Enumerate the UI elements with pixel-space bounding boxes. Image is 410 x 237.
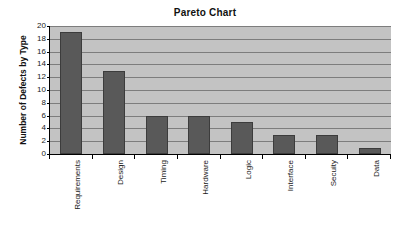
x-category-label-text: Requirements [73, 160, 82, 210]
bar [359, 148, 381, 154]
y-tick-label: 2 [28, 137, 46, 145]
y-tick-label: 10 [28, 86, 46, 94]
bar [60, 32, 82, 154]
y-axis-title: Number of Defects by Type [18, 20, 28, 160]
bar [103, 71, 125, 154]
x-category-label: Design [117, 160, 126, 185]
x-category-label: Timing [160, 160, 169, 184]
x-tick-mark [305, 155, 306, 159]
x-category-label: Hardware [202, 160, 211, 195]
x-tick-mark [134, 155, 135, 159]
x-category-label: Secuity [330, 160, 339, 186]
x-category-label-text: Interface [286, 160, 295, 191]
x-tick-mark [262, 155, 263, 159]
bar [316, 135, 338, 154]
x-category-label-text: Logic [244, 160, 253, 179]
y-tick-label: 16 [28, 48, 46, 56]
y-tick-label: 0 [28, 150, 46, 158]
y-tick-label: 18 [28, 35, 46, 43]
x-category-label-text: Hardware [201, 160, 210, 195]
x-category-label: Interface [287, 160, 296, 191]
x-tick-mark [390, 155, 391, 159]
y-tick-label: 6 [28, 112, 46, 120]
y-axis-tick-labels: 02468101214161820 [28, 26, 46, 154]
x-category-label-text: Timing [159, 160, 168, 184]
x-category-label: Data [373, 160, 382, 177]
chart-title: Pareto Chart [0, 7, 410, 18]
y-tick-label: 20 [28, 22, 46, 30]
bar [146, 116, 168, 154]
x-category-label-text: Secuity [329, 160, 338, 186]
y-tick-label: 8 [28, 99, 46, 107]
x-category-label: Requirements [74, 160, 83, 210]
x-tick-mark [92, 155, 93, 159]
pareto-chart-figure: Pareto Chart Number of Defects by Type 0… [0, 0, 410, 237]
x-axis-category-labels: RequirementsDesignTimingHardwareLogicInt… [49, 160, 391, 234]
bar [273, 135, 295, 154]
x-category-label: Logic [245, 160, 254, 179]
y-tick-label: 14 [28, 60, 46, 68]
bar [231, 122, 253, 154]
plot-area [49, 26, 391, 155]
x-category-label-text: Data [372, 160, 381, 177]
x-tick-mark [220, 155, 221, 159]
x-tick-mark [347, 155, 348, 159]
x-axis-tick-marks [49, 155, 391, 159]
y-tick-label: 4 [28, 124, 46, 132]
x-category-label-text: Design [116, 160, 125, 185]
x-tick-mark [177, 155, 178, 159]
bar [188, 116, 210, 154]
y-tick-label: 12 [28, 73, 46, 81]
x-tick-mark [49, 155, 50, 159]
bar-series [50, 26, 391, 154]
